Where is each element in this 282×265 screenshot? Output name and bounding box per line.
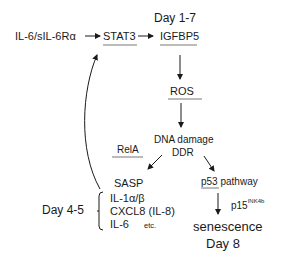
arrow-feedback-sasp-to-stat3 [85, 55, 100, 189]
node-senescence: senescence [193, 220, 262, 233]
arrow-ddr-to-p53 [204, 156, 214, 171]
sasp-item-il6: IL-6 [110, 219, 129, 230]
node-ros: ROS [170, 86, 194, 97]
label-p15: p15INK4b [231, 201, 264, 211]
day-4-5-label: Day 4-5 [42, 204, 84, 216]
day-8-label: Day 8 [206, 237, 240, 250]
node-sasp: SASP [114, 178, 143, 189]
p15-superscript: INK4b [248, 198, 265, 204]
sasp-bracket [99, 192, 103, 230]
arrow-ddr-to-sasp [148, 155, 162, 169]
node-stat3: STAT3 [103, 31, 136, 42]
node-dna-damage: DNA damage [154, 135, 213, 145]
sasp-item-il1: IL-1α/β [110, 193, 145, 204]
node-il6-ligand: IL-6/sIL-6Rα [15, 31, 76, 42]
node-p53-pathway: p53 pathway [201, 177, 258, 187]
node-pathway: pathway [220, 176, 257, 187]
p15-text: p15 [231, 200, 248, 211]
node-p53: p53 [201, 176, 218, 187]
sasp-item-etc: etc. [144, 222, 156, 230]
node-igfbp5: IGFBP5 [160, 31, 199, 42]
day-1-7-label: Day 1-7 [154, 12, 196, 24]
node-ddr: DDR [172, 148, 194, 158]
sasp-item-cxcl8: CXCL8 (IL-8) [110, 206, 175, 217]
label-rela: RelA [117, 145, 139, 155]
